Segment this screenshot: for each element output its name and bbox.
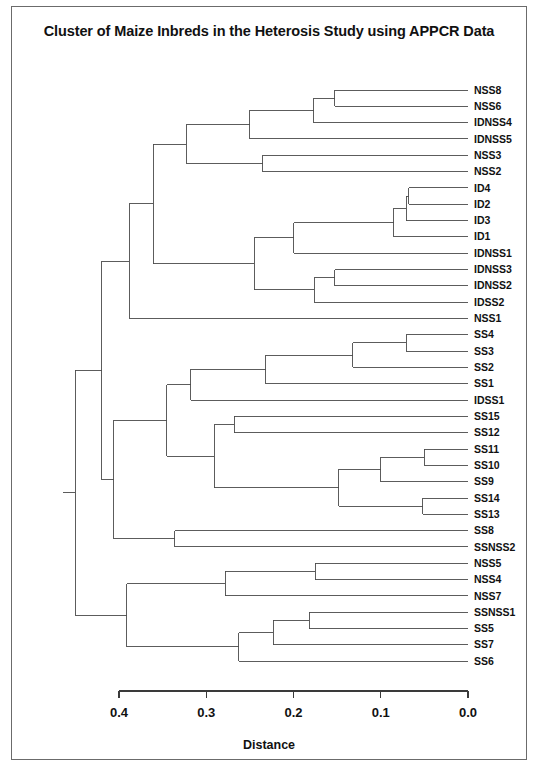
branch-m32 bbox=[239, 633, 468, 662]
branch-m4 bbox=[250, 110, 468, 139]
leaf-label-nss1: NSS1 bbox=[474, 312, 502, 324]
leaf-label-ssnss2: SSNSS2 bbox=[474, 541, 516, 553]
figure-frame: Cluster of Maize Inbreds in the Heterosi… bbox=[11, 6, 527, 760]
branch-m26 bbox=[175, 531, 468, 547]
branch-m2 bbox=[314, 98, 468, 122]
branch-m17 bbox=[266, 355, 468, 384]
axis-tick-label-0.0: 0.0 bbox=[459, 705, 477, 720]
branch-m8 bbox=[394, 208, 468, 237]
leaf-label-idnss5: IDNSS5 bbox=[474, 133, 512, 145]
leaf-label-ss1: SS1 bbox=[474, 377, 494, 389]
branch-m7 bbox=[406, 196, 468, 220]
leaf-label-idnss1: IDNSS1 bbox=[474, 247, 512, 259]
distance-axis: 0.40.30.20.10.0 bbox=[110, 691, 477, 720]
leaf-label-idnss2: IDNSS2 bbox=[474, 279, 512, 291]
leaf-label-nss8: NSS8 bbox=[474, 84, 502, 96]
leaf-label-id3: ID3 bbox=[474, 214, 491, 226]
leaf-label-ss6: SS6 bbox=[474, 655, 494, 667]
branch-m19 bbox=[234, 416, 468, 432]
leaf-label-ssnss1: SSNSS1 bbox=[474, 606, 516, 618]
axis-tick-label-0.4: 0.4 bbox=[110, 705, 129, 720]
dendrogram-plot: NSS8NSS6IDNSS4IDNSS5NSS3NSS2ID4ID2ID3ID1… bbox=[12, 7, 528, 761]
branch-m16 bbox=[353, 343, 468, 367]
branch-m14 bbox=[129, 204, 468, 318]
leaf-label-ss4: SS4 bbox=[474, 328, 494, 340]
leaf-label-ss14: SS14 bbox=[474, 492, 500, 504]
branch-m22 bbox=[423, 498, 468, 514]
leaf-label-ss13: SS13 bbox=[474, 508, 500, 520]
leaf-label-nss2: NSS2 bbox=[474, 165, 502, 177]
axis-tick-label-0.2: 0.2 bbox=[284, 705, 302, 720]
axis-title: Distance bbox=[12, 738, 526, 752]
branch-m9 bbox=[335, 270, 468, 286]
leaf-label-id2: ID2 bbox=[474, 198, 491, 210]
leaf-label-ss10: SS10 bbox=[474, 459, 500, 471]
branch-m13 bbox=[153, 144, 254, 264]
leaf-label-id4: ID4 bbox=[474, 182, 491, 194]
leaf-label-idss1: IDSS1 bbox=[474, 394, 505, 406]
leaf-label-ss9: SS9 bbox=[474, 475, 494, 487]
branch-m5 bbox=[186, 125, 263, 164]
branch-m33 bbox=[127, 584, 239, 647]
branch-m28 bbox=[315, 563, 468, 579]
axis-tick-label-0.3: 0.3 bbox=[197, 705, 215, 720]
branch-m6 bbox=[409, 188, 468, 204]
leaf-label-idnss3: IDNSS3 bbox=[474, 263, 512, 275]
branch-m20 bbox=[424, 449, 468, 465]
leaf-label-ss5: SS5 bbox=[474, 622, 494, 634]
leaf-label-ss2: SS2 bbox=[474, 361, 494, 373]
branch-m18 bbox=[191, 369, 468, 400]
axis-tick-label-0.1: 0.1 bbox=[372, 705, 390, 720]
leaf-label-id1: ID1 bbox=[474, 230, 491, 242]
branch-m34 bbox=[102, 261, 130, 479]
leaf-label-nss6: NSS6 bbox=[474, 100, 502, 112]
branch-m31 bbox=[273, 620, 468, 644]
branch-m10 bbox=[314, 278, 468, 302]
leaf-label-nss4: NSS4 bbox=[474, 573, 502, 585]
branch-m12 bbox=[254, 238, 314, 290]
branch-m1 bbox=[335, 90, 468, 106]
leaf-label-ss7: SS7 bbox=[474, 638, 494, 650]
branch-m30 bbox=[309, 612, 468, 628]
branch-m3 bbox=[263, 155, 468, 171]
leaf-label-nss3: NSS3 bbox=[474, 149, 502, 161]
leaf-label-idss2: IDSS2 bbox=[474, 296, 505, 308]
branch-m15 bbox=[406, 335, 468, 351]
branch-m27 bbox=[114, 420, 175, 538]
leaf-label-ss11: SS11 bbox=[474, 443, 499, 455]
branch-m29 bbox=[225, 571, 468, 595]
leaf-label-ss8: SS8 bbox=[474, 524, 494, 536]
leaf-label-ss15: SS15 bbox=[474, 410, 500, 422]
leaf-label-nss7: NSS7 bbox=[474, 590, 502, 602]
leaf-label-idnss4: IDNSS4 bbox=[474, 116, 512, 128]
branch-m24 bbox=[214, 425, 339, 488]
branch-m11 bbox=[294, 223, 469, 254]
leaf-label-ss12: SS12 bbox=[474, 426, 500, 438]
leaf-label-ss3: SS3 bbox=[474, 345, 494, 357]
leaf-label-group: NSS8NSS6IDNSS4IDNSS5NSS3NSS2ID4ID2ID3ID1… bbox=[474, 84, 516, 667]
dendrogram-branches bbox=[63, 90, 468, 661]
leaf-label-nss5: NSS5 bbox=[474, 557, 502, 569]
